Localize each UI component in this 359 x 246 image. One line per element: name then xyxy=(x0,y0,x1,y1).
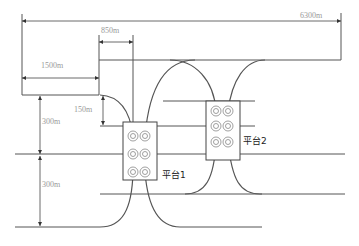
platform-2-label: 平台2 xyxy=(243,135,267,146)
horizontal-lines xyxy=(15,101,345,194)
dimension-300-bottom-label: 300m xyxy=(42,180,61,189)
platform-2: 平台2 xyxy=(206,101,267,160)
platform-1: 平台1 xyxy=(123,122,186,180)
dimension-1500: 1500m xyxy=(22,61,99,78)
boundary-lines xyxy=(22,13,341,122)
dimension-6300: 6300m xyxy=(22,11,341,21)
dimension-850: 850m xyxy=(99,26,133,42)
dimension-150-label: 150m xyxy=(74,105,93,114)
dimension-850-label: 850m xyxy=(101,26,120,35)
well-trajectories xyxy=(15,60,345,227)
dimension-300-bottom: 300m xyxy=(40,156,61,226)
dimension-150: 150m xyxy=(74,96,103,125)
platform-1-label: 平台1 xyxy=(162,169,186,180)
dimension-300-top-label: 300m xyxy=(42,117,61,126)
dimension-1500-label: 1500m xyxy=(41,61,64,70)
dimension-6300-label: 6300m xyxy=(300,11,323,20)
dimension-300-top: 300m xyxy=(40,96,61,154)
well-layout-diagram: 6300m 850m 1500m 150m 300m 300m xyxy=(0,0,359,246)
